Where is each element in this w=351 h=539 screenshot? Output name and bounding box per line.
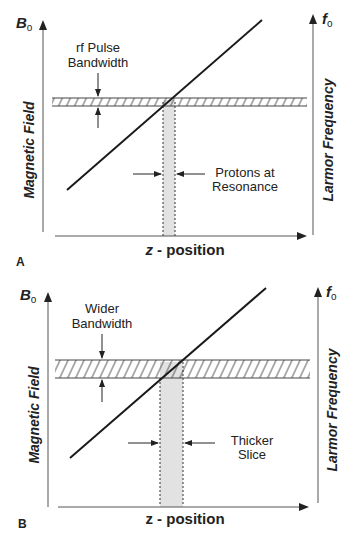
bandwidth-label-line1: Wider [85, 301, 120, 316]
right-y-axis [309, 14, 317, 235]
panel-label: B [18, 517, 27, 531]
panel-b: Bo Magnetic Field fo Larmor Frequency z … [18, 283, 340, 531]
x-axis-title: z - position [145, 510, 224, 527]
panel-a: Bo Magnetic Field fo Larmor Frequency z … [16, 10, 336, 269]
right-axis-title: Larmor Frequency [320, 77, 336, 201]
slice-selection-diagram: Bo Magnetic Field fo Larmor Frequency z … [0, 0, 351, 539]
slice-label-line1: Protons at [215, 165, 275, 180]
bandwidth-label-line2: Bandwidth [68, 55, 129, 70]
left-y-axis [39, 20, 47, 232]
slice-label-line2: Slice [238, 447, 266, 462]
resonance-slice [163, 100, 175, 236]
b0-symbol: Bo [16, 14, 33, 33]
bandwidth-label-line2: Bandwidth [72, 316, 133, 331]
x-axis [55, 232, 307, 240]
bandwidth-band [55, 360, 310, 378]
right-y-axis [314, 287, 322, 503]
slice-label-line1: Thicker [231, 433, 274, 448]
right-axis-title: Larmor Frequency [324, 347, 340, 471]
slice-label-line2: Resonance [212, 179, 278, 194]
x-axis-title: z - position [144, 241, 224, 258]
left-axis-title: Magnetic Field [26, 366, 42, 464]
f0-symbol: fo [322, 10, 333, 29]
panel-label: A [16, 255, 25, 269]
left-axis-title: Magnetic Field [21, 101, 37, 199]
resonance-slice [160, 362, 183, 507]
f0-symbol: fo [326, 283, 337, 302]
left-y-axis [44, 292, 52, 507]
bandwidth-label-line1: rf Pulse [76, 40, 120, 55]
b0-symbol: Bo [20, 286, 37, 305]
bandwidth-band [52, 98, 307, 106]
